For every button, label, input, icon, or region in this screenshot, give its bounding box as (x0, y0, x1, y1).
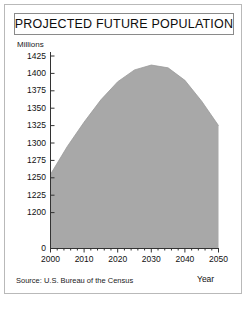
page-title: PROJECTED FUTURE POPULATION (15, 17, 233, 31)
x-axis-ticks (51, 249, 219, 253)
y-tick-label: 1350 (16, 103, 46, 113)
x-tick-label: 2030 (136, 254, 166, 264)
y-tick-label: 1275 (16, 155, 46, 165)
x-tick-label: 2000 (36, 254, 66, 264)
x-tick-label: 2020 (103, 254, 133, 264)
source-note: Source: U.S. Bureau of the Census (16, 276, 133, 285)
y-tick-label: 1375 (16, 85, 46, 95)
y-tick-label: 1325 (16, 120, 46, 130)
y-tick-label: 1200 (16, 207, 46, 217)
y-tick-label: 1425 (16, 51, 46, 61)
plot-area (50, 52, 219, 255)
chart-frame: PROJECTED FUTURE POPULATION Millions 120… (4, 4, 242, 294)
x-tick-label: 2040 (170, 254, 200, 264)
y-axis-units-label: Millions (17, 40, 44, 49)
y-tick-label-zero: 0 (16, 243, 46, 253)
x-tick-label: 2050 (204, 254, 234, 264)
y-tick-label: 1250 (16, 172, 46, 182)
population-area-series (51, 65, 219, 248)
y-tick-label: 1225 (16, 190, 46, 200)
area-chart-svg (50, 52, 219, 255)
x-axis-label: Year (197, 274, 214, 284)
y-tick-label: 1300 (16, 138, 46, 148)
y-tick-label: 1400 (16, 68, 46, 78)
x-tick-label: 2010 (69, 254, 99, 264)
chart-title-box: PROJECTED FUTURE POPULATION (14, 13, 234, 35)
